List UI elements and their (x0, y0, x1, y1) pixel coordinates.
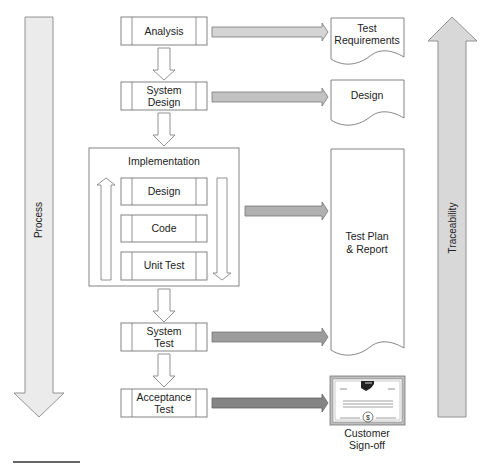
traceability-arrow: Traceability (428, 17, 477, 417)
artifact-customer-sign-off: $ Customer Sign-off (330, 376, 405, 451)
flow-arrow-down (153, 48, 175, 80)
artifact-label-line1: Customer (344, 427, 390, 439)
artifact-label-line2: Sign-off (349, 439, 385, 451)
artifact-label-line1: Test (357, 22, 376, 34)
artifact-label: Design (351, 89, 384, 101)
artifact-label-line2: Requirements (334, 34, 399, 46)
artifact-test-requirements: Test Requirements (331, 18, 404, 64)
process-arrow: Process (14, 17, 64, 417)
phase-label-line2: Test (154, 403, 173, 415)
phase-label-line2: Design (148, 96, 181, 108)
impl-step-code: Code (121, 215, 207, 242)
impl-step-label: Design (148, 185, 181, 197)
dollar-sign: $ (366, 414, 370, 421)
flow-arrow-down (153, 289, 175, 322)
phase-label-line1: System (146, 325, 181, 337)
phase-label: Analysis (144, 25, 183, 37)
phase-system-design: System Design (121, 82, 207, 110)
process-label: Process (33, 202, 44, 238)
trace-arrow-analysis (212, 23, 328, 41)
artifact-test-plan-report: Test Plan & Report (331, 149, 404, 355)
impl-step-label: Code (151, 222, 176, 234)
traceability-label: Traceability (447, 203, 458, 254)
phase-label-line1: Acceptance (137, 391, 192, 403)
impl-step-label: Unit Test (144, 259, 185, 271)
phase-acceptance-test: Acceptance Test (121, 389, 207, 417)
phase-label-line2: Test (154, 337, 173, 349)
artifact-label-line1: Test Plan (345, 230, 388, 242)
artifact-design: Design (331, 80, 404, 125)
trace-arrow-implementation (245, 202, 328, 220)
phase-label-line1: System (146, 84, 181, 96)
implementation-title: Implementation (128, 155, 200, 167)
trace-arrow-system-design (212, 88, 328, 106)
trace-arrow-acceptance-test (212, 394, 328, 412)
traceability-diagram: Process Traceability Analysis System Des… (0, 0, 487, 464)
flow-arrow-down (153, 113, 175, 146)
phase-analysis: Analysis (121, 17, 207, 45)
phase-system-test: System Test (121, 323, 207, 351)
certificate-icon: $ (330, 376, 405, 425)
impl-step-unit-test: Unit Test (121, 252, 207, 280)
artifact-label-line2: & Report (346, 243, 388, 255)
impl-step-design: Design (121, 178, 207, 205)
trace-arrow-system-test (212, 328, 328, 346)
implementation-group: Implementation Design Code Unit Test (89, 148, 239, 286)
flow-arrow-down (153, 354, 175, 387)
